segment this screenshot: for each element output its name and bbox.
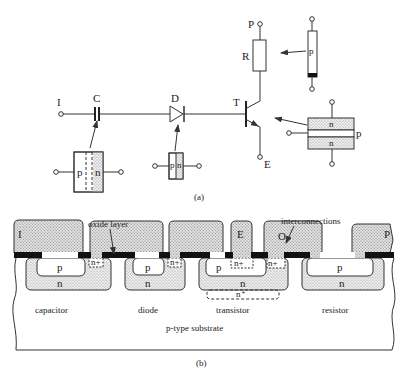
transistor-p-label: p bbox=[356, 127, 362, 139]
resistor-n-label: n bbox=[339, 277, 345, 289]
resistor-device-label: resistor bbox=[322, 305, 349, 315]
caption-a: (a) bbox=[194, 192, 204, 202]
transistor-n-label: n bbox=[240, 277, 246, 289]
diode-label: D bbox=[171, 92, 179, 104]
emitter-label: E bbox=[264, 158, 271, 170]
transistor-p-label: p bbox=[216, 261, 222, 273]
diode-device-label: diode bbox=[138, 305, 158, 315]
transistor-device-label: transistor bbox=[216, 305, 250, 315]
transistor-top-n-label: n bbox=[329, 119, 334, 129]
power-terminal-label: P bbox=[384, 228, 390, 240]
capacitor-p-label: p bbox=[77, 166, 83, 178]
interconnections-callout: interconnections bbox=[281, 216, 341, 226]
diode-symbol bbox=[170, 106, 184, 122]
emitter-terminal bbox=[258, 155, 263, 160]
transistor-structure-inset: n n p bbox=[275, 100, 362, 167]
resistor-p-label: p bbox=[309, 46, 314, 56]
diode-p-label: p bbox=[145, 261, 151, 273]
resistor-p-label: p bbox=[337, 261, 343, 273]
capacitor-n-label: n bbox=[95, 166, 101, 178]
resistor-symbol bbox=[253, 40, 266, 71]
transistor-collector-nplus-label: n+ bbox=[268, 258, 278, 268]
diode-p-label: p bbox=[170, 160, 175, 170]
input-terminal bbox=[59, 112, 64, 117]
capacitor-structure-inset: p n bbox=[54, 121, 124, 192]
diode-nplus-label: n+ bbox=[170, 257, 180, 267]
transistor-label: T bbox=[233, 96, 240, 108]
capacitor-symbol bbox=[95, 107, 99, 121]
power-terminal bbox=[258, 22, 263, 27]
power-label: P bbox=[248, 18, 254, 30]
resistor-structure-inset: p bbox=[281, 17, 317, 92]
ic-diagram: I C D T E R P bbox=[0, 0, 409, 371]
input-terminal-label: I bbox=[18, 228, 22, 240]
circuit-schematic: I C D T E R P bbox=[57, 18, 271, 170]
output-terminal-label: O bbox=[278, 230, 286, 242]
diode-structure-inset: p n bbox=[153, 125, 202, 179]
emitter-terminal-label: E bbox=[237, 228, 244, 240]
caption-b: (b) bbox=[196, 358, 207, 368]
capacitor-n-label: n bbox=[57, 277, 63, 289]
resistor-label: R bbox=[242, 50, 250, 62]
capacitor-label: C bbox=[93, 92, 100, 104]
diode-n-label: n bbox=[145, 277, 151, 289]
transistor-emitter-nplus-label: n+ bbox=[234, 258, 244, 268]
capacitor-nplus-label: n+ bbox=[91, 257, 101, 267]
capacitor-device-label: capacitor bbox=[35, 305, 68, 315]
oxide-layer-callout: oxide layer bbox=[88, 219, 128, 229]
substrate-label: p-type substrate bbox=[166, 323, 223, 333]
transistor-symbol bbox=[246, 70, 260, 155]
buried-nplus-label: n⁺ bbox=[236, 289, 246, 299]
transistor-bottom-n-label: n bbox=[329, 138, 334, 148]
input-label: I bbox=[57, 96, 61, 108]
capacitor-p-label: p bbox=[57, 261, 63, 273]
ic-cross-section: p n n+ p n n+ p n+ n+ n n⁺ p n capacitor… bbox=[13, 216, 395, 350]
diode-n-label: n bbox=[177, 160, 182, 170]
